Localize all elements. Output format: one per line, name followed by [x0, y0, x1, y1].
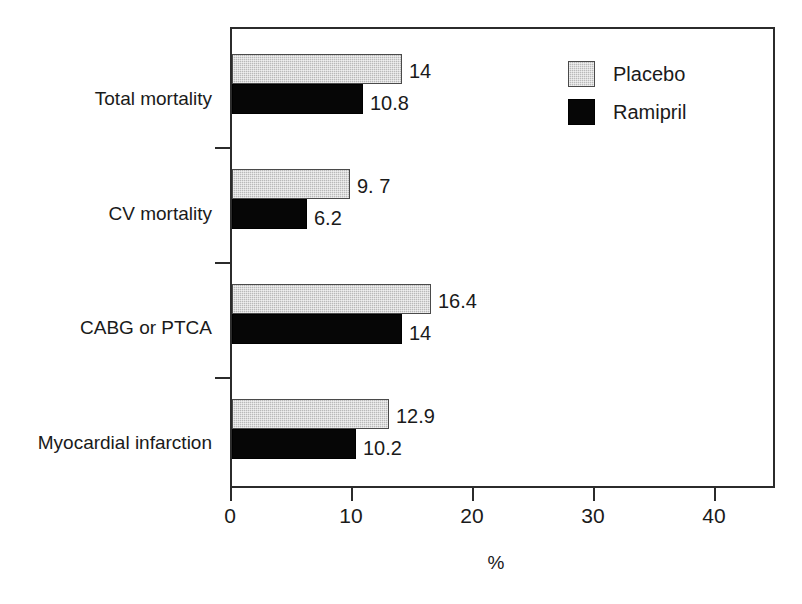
y-axis-label-cabg-or-ptca: CABG or PTCA	[80, 318, 212, 337]
y-axis-label-myocardial-infarction: Myocardial infarction	[38, 433, 212, 452]
bar-value-placebo-cabg-or-ptca: 16.4	[438, 291, 477, 311]
x-axis-tick-label-0: 0	[224, 505, 236, 526]
legend-entry-ramipril: Ramipril	[568, 93, 686, 131]
bar-value-placebo-cv-mortality: 9. 7	[357, 176, 390, 196]
x-axis-tick-30	[593, 488, 595, 501]
bar-value-ramipril-total-mortality: 10.8	[370, 93, 409, 113]
bar-placebo-total-mortality	[232, 54, 402, 84]
bar-ramipril-myocardial-infarction	[232, 429, 356, 459]
x-axis-tick-label-10: 10	[339, 505, 362, 526]
bar-value-ramipril-cabg-or-ptca: 14	[409, 323, 431, 343]
y-axis-tick-1	[215, 147, 231, 149]
x-axis-tick-label-40: 40	[702, 505, 725, 526]
y-axis-category-labels: Total mortality CV mortality CABG or PTC…	[0, 0, 222, 604]
x-axis-title: %	[488, 552, 505, 573]
bar-ramipril-cabg-or-ptca	[232, 314, 402, 344]
y-axis-tick-2	[215, 262, 231, 264]
plot-area: 14 10.8 9. 7 6.2 16.4 14 12.9 10.2 Place…	[230, 27, 775, 488]
bar-value-ramipril-cv-mortality: 6.2	[314, 208, 342, 228]
x-axis-tick-0	[230, 488, 232, 501]
legend-entry-placebo: Placebo	[568, 55, 686, 93]
x-axis-title-wrapper: %	[0, 552, 802, 574]
bar-placebo-myocardial-infarction	[232, 399, 389, 429]
legend-swatch-placebo-icon	[568, 61, 595, 87]
bar-ramipril-total-mortality	[232, 84, 363, 114]
legend-label-placebo: Placebo	[613, 64, 685, 84]
legend: Placebo Ramipril	[568, 55, 686, 131]
legend-label-ramipril: Ramipril	[613, 102, 686, 122]
bar-placebo-cabg-or-ptca	[232, 284, 431, 314]
y-axis-label-total-mortality: Total mortality	[95, 89, 212, 108]
bar-placebo-cv-mortality	[232, 169, 350, 199]
y-axis-label-cv-mortality: CV mortality	[109, 204, 212, 223]
y-axis-tick-3	[215, 377, 231, 379]
x-axis-tick-40	[714, 488, 716, 501]
bar-chart-figure: Total mortality CV mortality CABG or PTC…	[0, 0, 802, 604]
bar-value-placebo-myocardial-infarction: 12.9	[396, 406, 435, 426]
x-axis-tick-label-20: 20	[460, 505, 483, 526]
bar-ramipril-cv-mortality	[232, 199, 307, 229]
bar-value-placebo-total-mortality: 14	[409, 61, 431, 81]
bar-value-ramipril-myocardial-infarction: 10.2	[363, 438, 402, 458]
x-axis-tick-20	[472, 488, 474, 501]
legend-swatch-ramipril-icon	[568, 99, 595, 125]
x-axis-tick-10	[351, 488, 353, 501]
x-axis-tick-label-30: 30	[581, 505, 604, 526]
